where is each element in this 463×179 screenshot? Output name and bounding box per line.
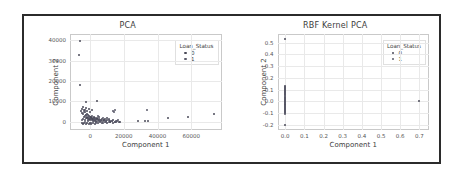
y-axis-tick-label: 0.0 [265, 98, 274, 104]
y-axis-tick-label: 40000 [49, 37, 67, 43]
grid-line-horizontal [278, 113, 430, 114]
x-axis-tick-label: 0.1 [300, 133, 309, 139]
x-axis-tick-label: 0.2 [319, 133, 328, 139]
legend-title: Loan_Status [179, 43, 213, 49]
scatter-point [137, 120, 139, 122]
scatter-point [84, 121, 86, 123]
legend-title: Loan_Status [387, 43, 421, 49]
scatter-point [83, 111, 85, 113]
grid-line-vertical [124, 34, 125, 130]
grid-line-horizontal [278, 54, 430, 55]
scatter-point [284, 113, 286, 115]
scatter-point [146, 109, 148, 111]
scatter-point [105, 121, 107, 123]
axis-spine-top [278, 34, 430, 35]
x-axis-tick-label: 0.6 [396, 133, 405, 139]
x-axis-tick-label: 0.4 [358, 133, 367, 139]
scatter-point [78, 54, 80, 56]
legend-item-1[interactable]: 1 [387, 56, 421, 62]
scatter-point [117, 119, 119, 121]
x-axis-tick-label: 40000 [149, 133, 167, 139]
axis-spine-right [221, 34, 222, 130]
grid-line-vertical [400, 34, 401, 130]
x-axis-label-pca: Component 1 [70, 141, 222, 149]
axis-spine-left [278, 34, 279, 130]
grid-line-vertical [419, 34, 420, 130]
x-axis-tick-label: 0.3 [338, 133, 347, 139]
scatter-point [97, 115, 99, 117]
grid-line-vertical [158, 34, 159, 130]
scatter-point [284, 124, 286, 126]
scatter-point [88, 116, 90, 118]
scatter-point [114, 121, 116, 123]
scatter-point [91, 109, 93, 111]
grid-line-vertical [381, 34, 382, 130]
scatter-point [94, 118, 96, 120]
plot-area-rbf: Component 2 Component 1 Loan_Status 0 1 … [278, 34, 430, 130]
y-axis-tick-label: -0.1 [263, 110, 274, 116]
scatter-point [147, 120, 149, 122]
chart-panel-pca: PCA Component 2 Component 1 Loan_Status … [24, 16, 232, 162]
grid-line-horizontal [278, 43, 430, 44]
legend-marker-icon [392, 58, 395, 61]
axis-spine-left [70, 34, 71, 130]
scatter-point [99, 120, 101, 122]
y-axis-tick-label: -0.2 [263, 122, 274, 128]
scatter-point [284, 38, 286, 40]
x-axis-label-rbf: Component 1 [278, 141, 430, 149]
scatter-point [167, 117, 169, 119]
scatter-point [79, 84, 81, 86]
scatter-point [144, 120, 146, 122]
axis-spine-right [428, 34, 429, 130]
y-axis-tick-label: 0.4 [265, 51, 274, 57]
scatter-point [111, 120, 113, 122]
grid-line-horizontal [70, 61, 222, 62]
scatter-point [102, 122, 104, 124]
y-axis-tick-label: 0.1 [265, 87, 274, 93]
x-axis-tick-label: 20000 [115, 133, 133, 139]
scatter-point [108, 118, 110, 120]
x-axis-tick-label: 0.5 [377, 133, 386, 139]
scatter-point [102, 117, 104, 119]
plot-area-pca: Component 2 Component 1 Loan_Status 0 1 … [70, 34, 222, 130]
y-axis-tick-label: 30000 [49, 58, 67, 64]
grid-line-horizontal [278, 90, 430, 91]
y-axis-tick-label: 10000 [49, 98, 67, 104]
grid-line-vertical [191, 34, 192, 130]
scatter-point [213, 113, 215, 115]
scatter-point [96, 100, 98, 102]
scatter-point [85, 101, 87, 103]
x-axis-tick-label: 0.7 [415, 133, 424, 139]
scatter-point [418, 100, 420, 102]
scatter-point [92, 120, 94, 122]
y-axis-tick-label: 0.3 [265, 63, 274, 69]
grid-line-horizontal [278, 101, 430, 102]
axis-spine-bottom [70, 129, 222, 130]
scatter-point [187, 116, 189, 118]
axis-spine-top [70, 34, 222, 35]
x-axis-tick-label: 0 [88, 133, 92, 139]
scatter-point [113, 111, 115, 113]
x-axis-tick-label: 60000 [182, 133, 200, 139]
y-axis-tick-label: 0 [63, 119, 67, 125]
y-axis-tick-label: 0.5 [265, 40, 274, 46]
scatter-point [119, 121, 121, 123]
grid-line-horizontal [70, 81, 222, 82]
figure-container: PCA Component 2 Component 1 Loan_Status … [22, 14, 441, 164]
grid-line-horizontal [278, 78, 430, 79]
x-axis-tick-label: 0.0 [281, 133, 290, 139]
chart-panel-rbf: RBF Kernel PCA Component 2 Component 1 L… [232, 16, 440, 162]
grid-line-horizontal [278, 66, 430, 67]
scatter-point [95, 122, 97, 124]
scatter-point [87, 120, 89, 122]
y-axis-tick-label: 20000 [49, 78, 67, 84]
grid-line-horizontal [278, 125, 430, 126]
y-axis-tick-label: 0.2 [265, 75, 274, 81]
legend-marker-icon [184, 52, 187, 55]
scatter-point [114, 109, 116, 111]
axis-spine-bottom [278, 129, 430, 130]
scatter-point [81, 119, 83, 121]
scatter-point [90, 122, 92, 124]
scatter-point [108, 121, 110, 123]
grid-line-vertical [324, 34, 325, 130]
